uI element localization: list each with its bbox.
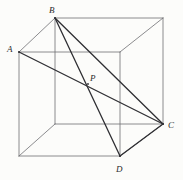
vertex-label-p: P	[90, 74, 96, 83]
vertex-point-d	[119, 155, 121, 157]
vertex-point-c	[162, 123, 164, 125]
cube-point-group	[18, 17, 164, 157]
cube-diagram: A B C D P	[0, 0, 183, 180]
cube-diagonal-group	[19, 18, 163, 156]
cube-edge-group	[19, 18, 163, 156]
diagonal-b-d	[55, 18, 120, 156]
vertex-label-b: B	[49, 6, 55, 15]
vertex-point-p	[87, 83, 89, 85]
vertex-label-d: D	[116, 165, 123, 174]
cube-edge-a-b	[19, 18, 55, 52]
cube-diagram-canvas	[0, 0, 183, 180]
vertex-label-a: A	[7, 45, 13, 54]
diagonal-b-c	[55, 18, 163, 124]
diagonal-a-c	[19, 52, 163, 124]
vertex-label-c: C	[168, 121, 174, 130]
vertex-point-a	[18, 51, 20, 53]
diagonal-c-d	[120, 124, 163, 156]
vertex-point-b	[54, 17, 56, 19]
cube-edge-fbl-bbl	[19, 124, 55, 156]
cube-edge-ftr-btr	[120, 18, 163, 52]
